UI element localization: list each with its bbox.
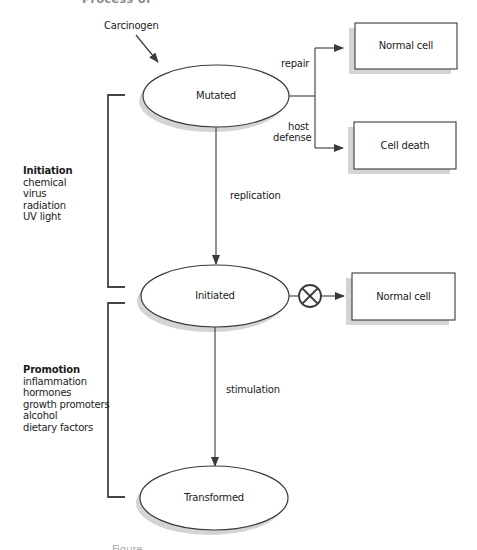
blocked-x-icon bbox=[299, 285, 321, 307]
replication-label: replication bbox=[230, 190, 281, 202]
promotion-bracket bbox=[108, 303, 125, 497]
figure-caption-partial: Figure bbox=[112, 544, 232, 550]
repair-label: repair bbox=[281, 58, 309, 70]
initiation-factor: UV light bbox=[23, 211, 72, 223]
mutated-node-label: Mutated bbox=[166, 90, 266, 102]
initiation-heading: Initiation bbox=[23, 165, 72, 177]
stimulation-label: stimulation bbox=[226, 384, 280, 396]
normal-cell-label-1: Normal cell bbox=[355, 40, 457, 52]
promotion-factor: growth promoters bbox=[23, 399, 109, 411]
initiation-stage: Initiation chemical virus radiation UV l… bbox=[23, 165, 72, 223]
initiation-factor: radiation bbox=[23, 200, 72, 212]
initiation-factor: chemical bbox=[23, 177, 72, 189]
initiation-factor: virus bbox=[23, 188, 72, 200]
initiated-node-label: Initiated bbox=[165, 290, 265, 302]
host-defense-label-line2: defense bbox=[273, 132, 311, 144]
promotion-factor: inflammation bbox=[23, 376, 109, 388]
promotion-factor: alcohol bbox=[23, 410, 109, 422]
cell-death-label: Cell death bbox=[354, 140, 456, 152]
carcinogen-label: Carcinogen bbox=[104, 20, 159, 32]
promotion-factor: dietary factors bbox=[23, 422, 109, 434]
promotion-factor: hormones bbox=[23, 387, 109, 399]
promotion-heading: Promotion bbox=[23, 364, 109, 376]
transformed-node-label: Transformed bbox=[164, 492, 264, 504]
carcinogen-arrow bbox=[136, 35, 158, 62]
promotion-stage: Promotion inflammation hormones growth p… bbox=[23, 364, 109, 433]
normal-cell-label-2: Normal cell bbox=[352, 291, 455, 303]
figure-title-partial: Process of carcinogenesis bbox=[82, 0, 254, 3]
initiation-bracket bbox=[108, 95, 125, 287]
